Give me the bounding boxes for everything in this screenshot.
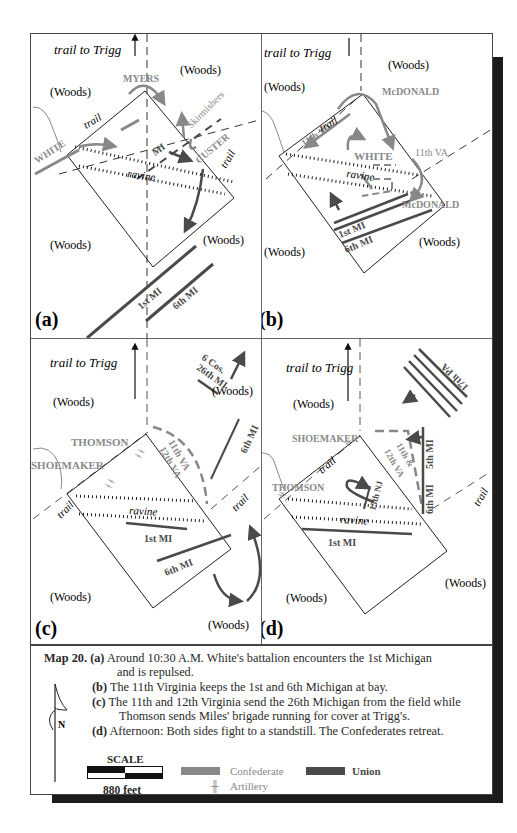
map-frame: trail to Trigg (Woods) (Woods) (Woods) (…: [30, 33, 493, 795]
caption-text: Afternoon: Both sides fight to a standst…: [109, 724, 443, 738]
legend-label-confederate: Confederate: [230, 764, 284, 779]
unit-label-6th-mi: 6th MI: [424, 484, 435, 514]
woods-label: (Woods): [50, 85, 91, 99]
unit-label-11th-va: 11th VA: [415, 147, 449, 158]
panel-b: trail to Trigg (Woods) (Woods) (Woods) (…: [262, 34, 492, 338]
panel-c-map: ǂ ǂ ǂ ǂ trail to Trigg (Woods) (Woods) (…: [31, 339, 261, 644]
caption-text: Around 10:30 A.M. White's battalion enco…: [107, 651, 432, 665]
legend-swatch-confederate: [181, 767, 220, 775]
north-label: N: [58, 719, 66, 730]
panel-c: ǂ ǂ ǂ ǂ trail to Trigg (Woods) (Woods) (…: [31, 339, 261, 644]
shoemaker-label: SHOEMAKER: [292, 433, 359, 444]
caption-line-d: (d) Afternoon: Both sides fight to a sta…: [92, 724, 444, 739]
caption-line-b: (b) The 11th Virginia keeps the 1st and …: [92, 680, 388, 695]
caption-text: The 11th and 12th Virginia send the 26th…: [109, 695, 461, 709]
ravine-label: ravine: [127, 167, 157, 183]
legend-label-union: Union: [352, 764, 381, 779]
map-caption: Map 20. (a) Around 10:30 A.M. White's ba…: [31, 646, 492, 794]
trail-to-trigg-label: trail to Trigg: [50, 355, 118, 370]
unit-label-5th-mi: 5th MI: [424, 439, 435, 469]
woods-label: (Woods): [180, 63, 221, 77]
panel-letter: (b): [262, 308, 283, 331]
woods-label: (Woods): [203, 233, 244, 247]
panel-a: trail to Trigg (Woods) (Woods) (Woods) (…: [31, 34, 261, 338]
woods-label: (Woods): [419, 235, 460, 249]
panel-d: ǂǂ ǂǂ trail to Trigg (Woods) (Woods) (Wo…: [262, 339, 492, 644]
woods-label: (Woods): [50, 238, 91, 252]
trail-to-trigg-label: trail to Trigg: [54, 42, 122, 57]
caption-letter: (a): [90, 651, 104, 665]
trail-label: trail: [316, 454, 338, 475]
caption-letter: (b): [92, 680, 107, 694]
woods-label: (Woods): [286, 591, 327, 605]
caption-letter: (d): [92, 724, 107, 738]
woods-label: (Woods): [264, 80, 305, 94]
north-arrow-icon: N: [43, 684, 73, 784]
unit-label-1st-mi: 1st MI: [144, 533, 172, 544]
scale-title: SCALE: [107, 752, 144, 767]
woods-label: (Woods): [264, 245, 305, 259]
legend-swatch-union: [306, 767, 345, 775]
woods-label: (Woods): [293, 397, 334, 411]
trail-label: trail: [470, 486, 490, 508]
mcdonald-label: McDONALD: [382, 86, 439, 97]
trail-to-trigg-label: trail to Trigg: [264, 45, 332, 60]
panel-b-map: trail to Trigg (Woods) (Woods) (Woods) (…: [262, 34, 492, 338]
unit-label-6th-mi: 6th MI: [163, 556, 195, 577]
panel-divider-horizontal: [31, 338, 492, 339]
ravine-label: ravine: [340, 513, 369, 526]
woods-label: (Woods): [50, 590, 91, 604]
unit-label-15th-nj: 15th NJ: [367, 479, 385, 511]
thomson-label: THOMSON: [272, 482, 325, 493]
map-number: Map 20.: [44, 651, 87, 665]
ravine-label: ravine: [346, 167, 376, 183]
caption-text-cont: Thomson sends Miles' brigade running for…: [119, 709, 410, 724]
skirmishers-label: Skirmishers: [185, 89, 227, 131]
woods-label: (Woods): [208, 618, 249, 632]
trail-label: trail: [217, 148, 237, 170]
unit-label-17th-pa: 17th PA: [438, 361, 470, 393]
white-label: WHITE: [354, 150, 393, 162]
white-label: WHITE: [32, 137, 68, 165]
legend-label-artillery: Artillery: [230, 779, 268, 794]
panel-letter: (c): [35, 617, 57, 640]
scale-distance: 880 feet: [103, 783, 141, 798]
unit-label-6th-mi: 6th MI: [238, 423, 261, 455]
caption-letter: (c): [92, 695, 106, 709]
trail-label: trail: [229, 492, 251, 514]
panel-letter: (d): [262, 617, 283, 640]
frame-shadow-right: [493, 57, 503, 803]
caption-line-c: (c) The 11th and 12th Virginia send the …: [92, 695, 461, 710]
trail-to-trigg-label: trail to Trigg: [286, 360, 354, 375]
panel-letter: (a): [35, 308, 58, 331]
woods-label: (Woods): [445, 576, 486, 590]
woods-label: (Woods): [53, 395, 94, 409]
panel-d-map: ǂǂ ǂǂ trail to Trigg (Woods) (Woods) (Wo…: [262, 339, 492, 644]
artillery-icon: ǂ ǂ: [132, 447, 147, 460]
caption-text: The 11th Virginia keeps the 1st and 6th …: [110, 680, 388, 694]
panel-divider-vertical: [261, 34, 262, 644]
unit-label-mi: MI: [150, 141, 167, 158]
caption-text-cont: and is repulsed.: [117, 665, 194, 680]
artillery-icon: ╫: [211, 779, 219, 794]
shoemaker-label: SHOEMAKER: [31, 459, 105, 471]
caption-line-a: Map 20. (a) Around 10:30 A.M. White's ba…: [44, 651, 432, 666]
thomson-label: THOMSON: [71, 436, 129, 448]
panel-a-map: trail to Trigg (Woods) (Woods) (Woods) (…: [31, 34, 261, 338]
scale-bar: [87, 766, 163, 779]
mcdonald-label: McDONALD: [402, 199, 459, 210]
unit-label-1st-mi: 1st MI: [328, 537, 356, 548]
artillery-icon: ǂ ǂ: [102, 477, 117, 490]
woods-label: (Woods): [388, 58, 429, 72]
myers-label: MYERS: [123, 73, 160, 84]
ravine-label: ravine: [129, 504, 158, 517]
